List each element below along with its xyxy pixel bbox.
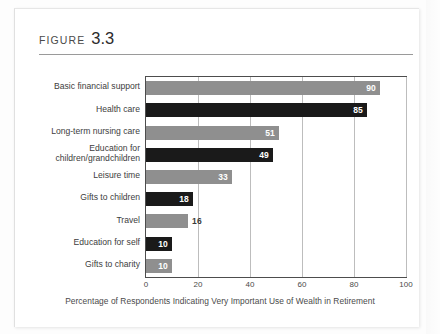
bar-row: 49: [146, 148, 406, 162]
bar-value-label: 33: [146, 170, 228, 184]
x-tick-label-100: 100: [399, 280, 412, 289]
bar-chart: Basic financial supportHealth careLong-t…: [0, 0, 440, 334]
category-label-line: Health care: [96, 104, 140, 114]
category-label: Gifts to charity: [20, 260, 140, 270]
category-label: Leisure time: [20, 171, 140, 181]
scan-edge-shading: [426, 0, 440, 334]
bar-row: 18: [146, 192, 406, 206]
bar-row: 51: [146, 126, 406, 140]
x-axis-ticks: 020406080100: [145, 280, 407, 292]
bar-value-label: 49: [146, 148, 269, 162]
gridline-100: [406, 77, 407, 277]
bar-value-label: 51: [146, 126, 275, 140]
category-label-line: Long-term nursing care: [51, 126, 140, 136]
bar-row: 10: [146, 237, 406, 251]
bar-value-label: 85: [146, 103, 363, 117]
bar-row: 10: [146, 259, 406, 273]
plot-area: 908551493318161010: [145, 76, 407, 278]
x-tick-label-40: 40: [246, 280, 255, 289]
bar-row: 33: [146, 170, 406, 184]
category-label-line: Education for: [89, 143, 140, 153]
category-label-line: children/grandchildren: [55, 153, 140, 163]
x-tick-label-20: 20: [194, 280, 203, 289]
x-tick-label-0: 0: [144, 280, 148, 289]
category-label: Long-term nursing care: [20, 127, 140, 137]
bar-value-label: 16: [192, 214, 202, 228]
category-label-line: Travel: [116, 215, 140, 225]
category-label-line: Education for self: [74, 237, 140, 247]
scanned-page: FIGURE3.3 Basic financial supportHealth …: [0, 0, 440, 334]
category-label: Gifts to children: [20, 193, 140, 203]
bar: [146, 214, 188, 228]
category-axis-labels: Basic financial supportHealth careLong-t…: [18, 76, 140, 278]
category-label-line: Leisure time: [93, 170, 140, 180]
bar-value-label: 10: [146, 237, 168, 251]
bar-row: 90: [146, 81, 406, 95]
category-label: Health care: [20, 105, 140, 115]
x-tick-label-80: 80: [350, 280, 359, 289]
x-axis-caption: Percentage of Respondents Indicating Ver…: [0, 296, 440, 306]
bar-value-label: 10: [146, 259, 168, 273]
bar-value-label: 90: [146, 81, 376, 95]
category-label-line: Basic financial support: [54, 81, 140, 91]
bar-value-label: 18: [146, 192, 189, 206]
category-label-line: Gifts to charity: [85, 259, 140, 269]
category-label: Education forchildren/grandchildren: [20, 144, 140, 163]
x-tick-label-60: 60: [298, 280, 307, 289]
category-label: Travel: [20, 216, 140, 226]
category-label: Basic financial support: [20, 82, 140, 92]
bar-row: 85: [146, 103, 406, 117]
bar-row: 16: [146, 214, 406, 228]
category-label: Education for self: [20, 238, 140, 248]
category-label-line: Gifts to children: [80, 192, 140, 202]
